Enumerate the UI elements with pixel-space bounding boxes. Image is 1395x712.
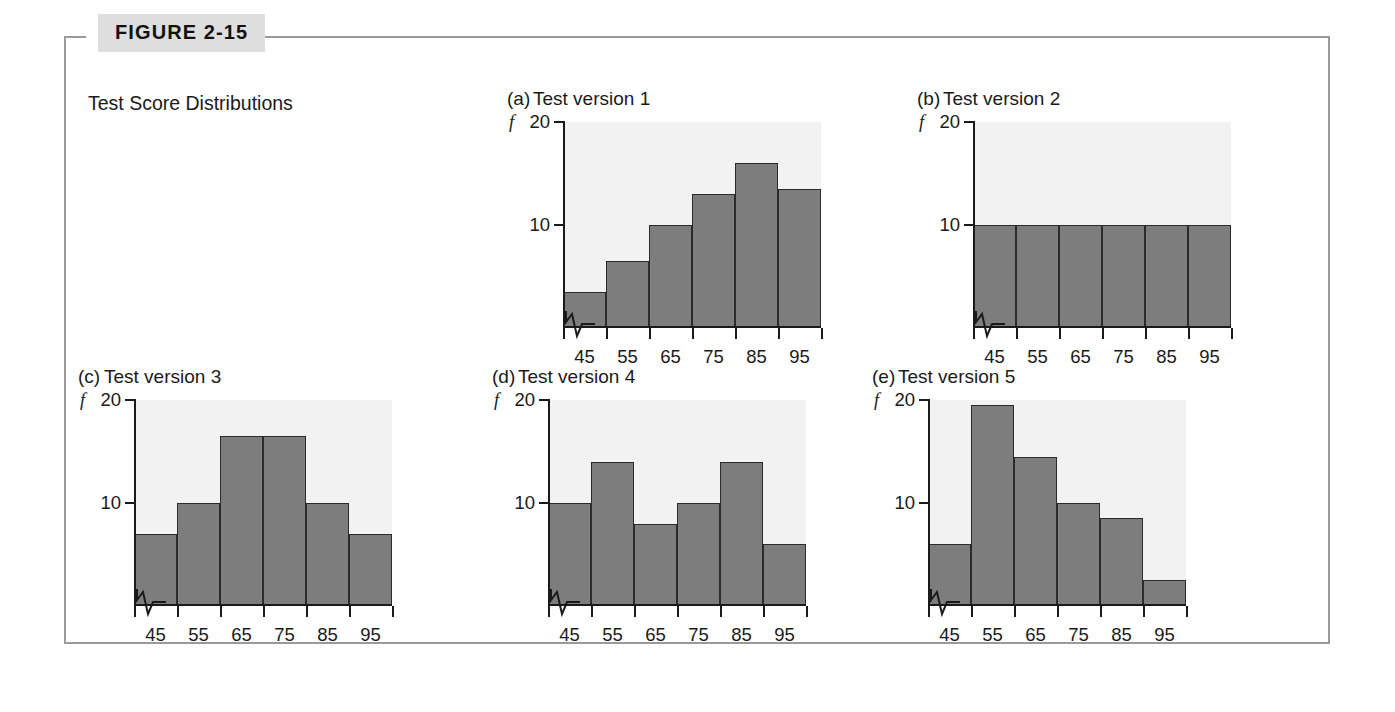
- x-axis-tick-label: 85: [731, 624, 752, 646]
- chart-title: (e)Test version 5: [872, 366, 1015, 388]
- y-axis-tick: [125, 502, 136, 504]
- histogram-bar: [692, 194, 735, 328]
- x-axis-tick: [606, 328, 608, 339]
- y-axis-tick: [554, 224, 565, 226]
- x-axis-tick: [763, 606, 765, 617]
- x-axis-tick: [1186, 606, 1188, 617]
- y-axis-tick: [539, 399, 550, 401]
- panel-letter: (d): [492, 366, 518, 388]
- x-axis-tick-label: 65: [1025, 624, 1046, 646]
- x-axis-tick: [649, 328, 651, 339]
- x-axis-tick-label: 45: [559, 624, 580, 646]
- frequency-axis-label: f: [919, 112, 924, 133]
- x-axis-tick: [349, 606, 351, 617]
- x-axis-tick-label: 45: [574, 346, 595, 368]
- x-axis-tick-label: 55: [188, 624, 209, 646]
- x-axis-tick-label: 85: [746, 346, 767, 368]
- plot-area: 1020f455565758595: [563, 122, 821, 328]
- x-axis-tick-label: 75: [1113, 346, 1134, 368]
- y-axis-tick: [539, 502, 550, 504]
- x-axis-tick-label: 85: [1156, 346, 1177, 368]
- frequency-axis-label: f: [494, 390, 499, 411]
- x-axis-tick: [1231, 328, 1233, 339]
- x-axis-tick: [720, 606, 722, 617]
- chart-title: (b)Test version 2: [917, 88, 1060, 110]
- panel-title-text: Test version 3: [104, 366, 221, 387]
- frequency-axis-label: f: [80, 390, 85, 411]
- figure-border-left: [64, 36, 66, 644]
- x-axis-tick: [1102, 328, 1104, 339]
- panel-letter: (b): [917, 88, 943, 110]
- histogram-bar: [763, 544, 806, 606]
- x-axis-tick: [1143, 606, 1145, 617]
- plot-area: 1020f455565758595: [548, 400, 806, 606]
- histogram-bar: [1188, 225, 1231, 328]
- x-axis-tick-label: 85: [1111, 624, 1132, 646]
- histogram-bar: [677, 503, 720, 606]
- plot-area: 1020f455565758595: [973, 122, 1231, 328]
- y-axis-tick-label: 20: [100, 391, 121, 410]
- x-axis-tick: [806, 606, 808, 617]
- histogram-bar: [634, 524, 677, 606]
- x-axis-tick: [1145, 328, 1147, 339]
- x-axis-tick-label: 55: [602, 624, 623, 646]
- x-axis-tick: [1059, 328, 1061, 339]
- histogram-bar: [1145, 225, 1188, 328]
- chart-title: (a)Test version 1: [507, 88, 650, 110]
- chart-title: (d)Test version 4: [492, 366, 635, 388]
- x-axis-tick-label: 95: [360, 624, 381, 646]
- x-axis-tick: [1016, 328, 1018, 339]
- x-axis-tick-label: 75: [274, 624, 295, 646]
- axis-break-icon: [975, 310, 1005, 344]
- axis-break-icon: [565, 310, 595, 344]
- x-axis-tick-label: 95: [1154, 624, 1175, 646]
- y-axis-tick-label: 10: [529, 216, 550, 235]
- figure-border-top-left: [64, 36, 86, 38]
- figure-border-right: [1328, 36, 1330, 644]
- x-axis-tick: [1057, 606, 1059, 617]
- histogram-bar: [306, 503, 349, 606]
- x-axis-tick: [735, 328, 737, 339]
- y-axis-tick-label: 10: [894, 494, 915, 513]
- panel-letter: (e): [872, 366, 898, 388]
- y-axis-tick: [964, 224, 975, 226]
- y-axis-tick: [964, 121, 975, 123]
- y-axis-tick: [919, 502, 930, 504]
- y-axis-tick-label: 10: [514, 494, 535, 513]
- x-axis-tick-label: 85: [317, 624, 338, 646]
- y-axis-tick-label: 10: [100, 494, 121, 513]
- histogram-bar: [778, 189, 821, 328]
- x-axis-tick: [677, 606, 679, 617]
- x-axis-tick: [971, 606, 973, 617]
- histogram-bar: [606, 261, 649, 328]
- histogram-bar: [971, 405, 1014, 606]
- histogram-bar: [1143, 580, 1186, 606]
- x-axis-tick: [692, 328, 694, 339]
- y-axis-tick-label: 20: [529, 113, 550, 132]
- plot-area: 1020f455565758595: [928, 400, 1186, 606]
- frequency-axis-label: f: [509, 112, 514, 133]
- x-axis-tick-label: 55: [982, 624, 1003, 646]
- histogram-bar: [220, 436, 263, 606]
- x-axis-tick: [220, 606, 222, 617]
- x-axis-tick: [821, 328, 823, 339]
- panel-letter: (c): [78, 366, 104, 388]
- x-axis-tick: [778, 328, 780, 339]
- x-axis-tick-label: 45: [145, 624, 166, 646]
- x-axis-tick-label: 65: [660, 346, 681, 368]
- y-axis-tick: [554, 121, 565, 123]
- histogram-bar: [1014, 457, 1057, 606]
- x-axis-tick-label: 95: [1199, 346, 1220, 368]
- x-axis-tick: [177, 606, 179, 617]
- panel-letter: (a): [507, 88, 533, 110]
- x-axis-tick: [634, 606, 636, 617]
- histogram-bar: [720, 462, 763, 606]
- x-axis-tick-label: 95: [789, 346, 810, 368]
- panel-title-text: Test version 1: [533, 88, 650, 109]
- x-axis-tick-label: 75: [703, 346, 724, 368]
- figure-number-label: FIGURE 2-15: [98, 14, 265, 52]
- x-axis-tick-label: 65: [231, 624, 252, 646]
- x-axis-tick: [263, 606, 265, 617]
- panel-title-text: Test version 4: [518, 366, 635, 387]
- histogram-bar: [735, 163, 778, 328]
